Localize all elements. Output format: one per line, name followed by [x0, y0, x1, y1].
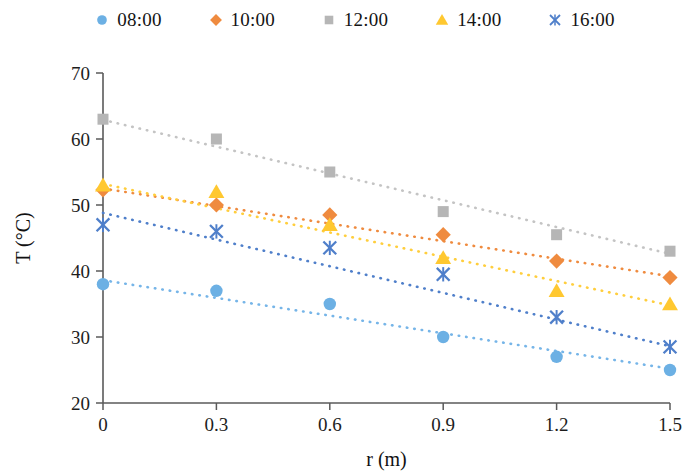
x-tick-label: 0.6 [318, 414, 342, 435]
data-point [662, 270, 677, 285]
data-point [437, 331, 449, 343]
series-points-1200 [98, 114, 676, 257]
data-point [209, 197, 224, 212]
data-point [324, 298, 336, 310]
data-point [438, 206, 449, 217]
x-tick-label: 0 [98, 414, 108, 435]
x-tick-label: 0.3 [205, 414, 229, 435]
y-tick-label: 70 [71, 63, 90, 84]
trendline-1400 [103, 184, 670, 305]
y-tick-label: 40 [71, 261, 90, 282]
plot-area: 20304050607000.30.60.91.21.5r (m)T (°C) [0, 0, 691, 474]
data-point [665, 246, 676, 257]
y-tick-label: 50 [71, 195, 90, 216]
data-point [437, 267, 450, 281]
data-point [549, 283, 565, 297]
data-point [322, 217, 338, 231]
data-point [95, 178, 111, 192]
data-point [662, 296, 678, 310]
y-tick-label: 20 [71, 393, 90, 414]
x-axis-title: r (m) [366, 448, 407, 471]
axes [103, 73, 670, 403]
data-point [551, 229, 562, 240]
y-tick-label: 30 [71, 327, 90, 348]
series-points-1400 [95, 178, 678, 311]
x-axis-ticks: 00.30.60.91.21.5 [98, 403, 682, 435]
trendline-1200 [103, 120, 670, 254]
data-point [210, 224, 223, 238]
trendline-0800 [103, 280, 670, 368]
x-tick-label: 1.5 [658, 414, 682, 435]
y-tick-label: 60 [71, 129, 90, 150]
data-point [549, 254, 564, 269]
series-points-1000 [95, 182, 677, 285]
series-points-1600 [97, 218, 677, 354]
data-point [550, 310, 563, 324]
data-point [97, 218, 110, 232]
data-point [550, 351, 562, 363]
svg-text:T (°C): T (°C) [12, 212, 35, 264]
data-point [98, 114, 109, 125]
data-point [323, 241, 336, 255]
trendline-1000 [103, 189, 670, 277]
data-point [211, 134, 222, 145]
y-axis-title: T (°C) [12, 212, 35, 264]
data-point [324, 167, 335, 178]
x-tick-label: 0.9 [431, 414, 455, 435]
chart-container: 08:0010:0012:0014:0016:00 20304050607000… [0, 0, 691, 474]
data-point [664, 340, 677, 354]
data-point [208, 184, 224, 198]
x-tick-label: 1.2 [545, 414, 569, 435]
data-point [664, 364, 676, 376]
data-point [210, 285, 222, 297]
data-point [97, 278, 109, 290]
